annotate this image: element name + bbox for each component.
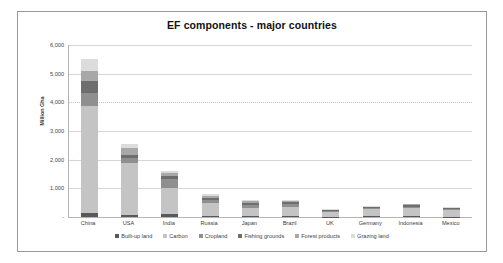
bar-slot [230,45,270,217]
y-axis-tick-label: 2,000 [50,157,64,163]
bar-segment[interactable] [242,216,259,217]
bar-stack[interactable] [443,207,460,217]
legend-item[interactable]: Forest products [295,233,340,239]
x-axis-tick-label: Mexico [431,220,471,226]
bar-slot [69,45,109,217]
bar-segment[interactable] [81,93,98,106]
bar-segment[interactable] [403,216,420,217]
x-axis-tick-labels: ChinaUSAIndiaRussiaJapanBrazilUKGermanyI… [68,220,471,226]
bar-segment[interactable] [81,81,98,93]
legend-swatch-icon [351,234,355,238]
bar-stack[interactable] [363,206,380,217]
bar-slot [190,45,230,217]
legend-item[interactable]: Cropland [199,233,228,239]
y-axis-tick-label: 6,000 [50,42,64,48]
y-axis-title: Million Gha [39,81,45,141]
bar-stack[interactable] [161,171,178,217]
chart-container: EF components - major countries Million … [17,11,487,252]
plot-area: 6,0005,0004,0003,0002,0001,000- [68,45,472,218]
bar-segment[interactable] [81,213,98,217]
bar-stack[interactable] [322,209,339,217]
legend-item[interactable]: Carbon [163,233,187,239]
bar-slot [270,45,310,217]
bar-segment[interactable] [282,216,299,217]
x-axis-tick-label: Brazil [269,220,309,226]
bar-segment[interactable] [161,179,178,188]
y-axis-tick-label: 5,000 [50,71,64,77]
legend-swatch-icon [238,234,242,238]
legend-swatch-icon [295,234,299,238]
bar-slot [432,45,472,217]
x-axis-tick-label: Germany [350,220,390,226]
legend-item[interactable]: Fishing grounds [238,233,284,239]
y-axis-tick-label: 3,000 [50,128,64,134]
bars-layer [69,45,472,217]
bar-segment[interactable] [282,207,299,216]
bar-segment[interactable] [403,208,420,216]
bar-segment[interactable] [202,216,219,217]
bar-segment[interactable] [202,203,219,217]
x-axis-tick-label: UK [310,220,350,226]
legend-label: Carbon [169,233,187,239]
x-axis-tick-label: USA [108,220,148,226]
legend-swatch-icon [199,234,203,238]
x-axis-tick-label: Japan [229,220,269,226]
legend-label: Built-up land [121,233,152,239]
bar-stack[interactable] [242,200,259,217]
bar-segment[interactable] [363,209,380,216]
bar-segment[interactable] [121,215,138,217]
legend-item[interactable]: Grazing land [351,233,389,239]
x-axis-tick-label: India [149,220,189,226]
bar-stack[interactable] [403,204,420,217]
legend-label: Cropland [205,233,228,239]
bar-stack[interactable] [282,200,299,217]
bar-segment[interactable] [81,59,98,71]
bar-segment[interactable] [363,216,380,217]
bar-segment[interactable] [81,71,98,80]
bar-segment[interactable] [242,208,259,217]
legend-swatch-icon [115,234,119,238]
legend-label: Grazing land [357,233,389,239]
bar-stack[interactable] [202,194,219,217]
legend-swatch-icon [163,234,167,238]
chart-legend: Built-up landCarbonCroplandFishing groun… [18,233,486,239]
bar-segment[interactable] [161,188,178,214]
y-axis-tick-label: 1,000 [50,185,64,191]
bar-segment[interactable] [161,214,178,217]
x-axis-tick-label: Indonesia [390,220,430,226]
x-axis-tick-label: China [68,220,108,226]
bar-segment[interactable] [121,163,138,216]
bar-slot [391,45,431,217]
y-axis-tick-label: - [62,214,64,220]
legend-item[interactable]: Built-up land [115,233,152,239]
legend-label: Fishing grounds [244,233,284,239]
bar-slot [109,45,149,217]
x-axis-tick-label: Russia [189,220,229,226]
y-axis-tick-label: 4,000 [50,99,64,105]
bar-stack[interactable] [81,59,98,217]
bar-stack[interactable] [121,144,138,217]
bar-slot [351,45,391,217]
legend-label: Forest products [301,233,340,239]
bar-segment[interactable] [81,106,98,214]
bar-slot [150,45,190,217]
bar-slot [311,45,351,217]
chart-title: EF components - major countries [18,19,486,31]
